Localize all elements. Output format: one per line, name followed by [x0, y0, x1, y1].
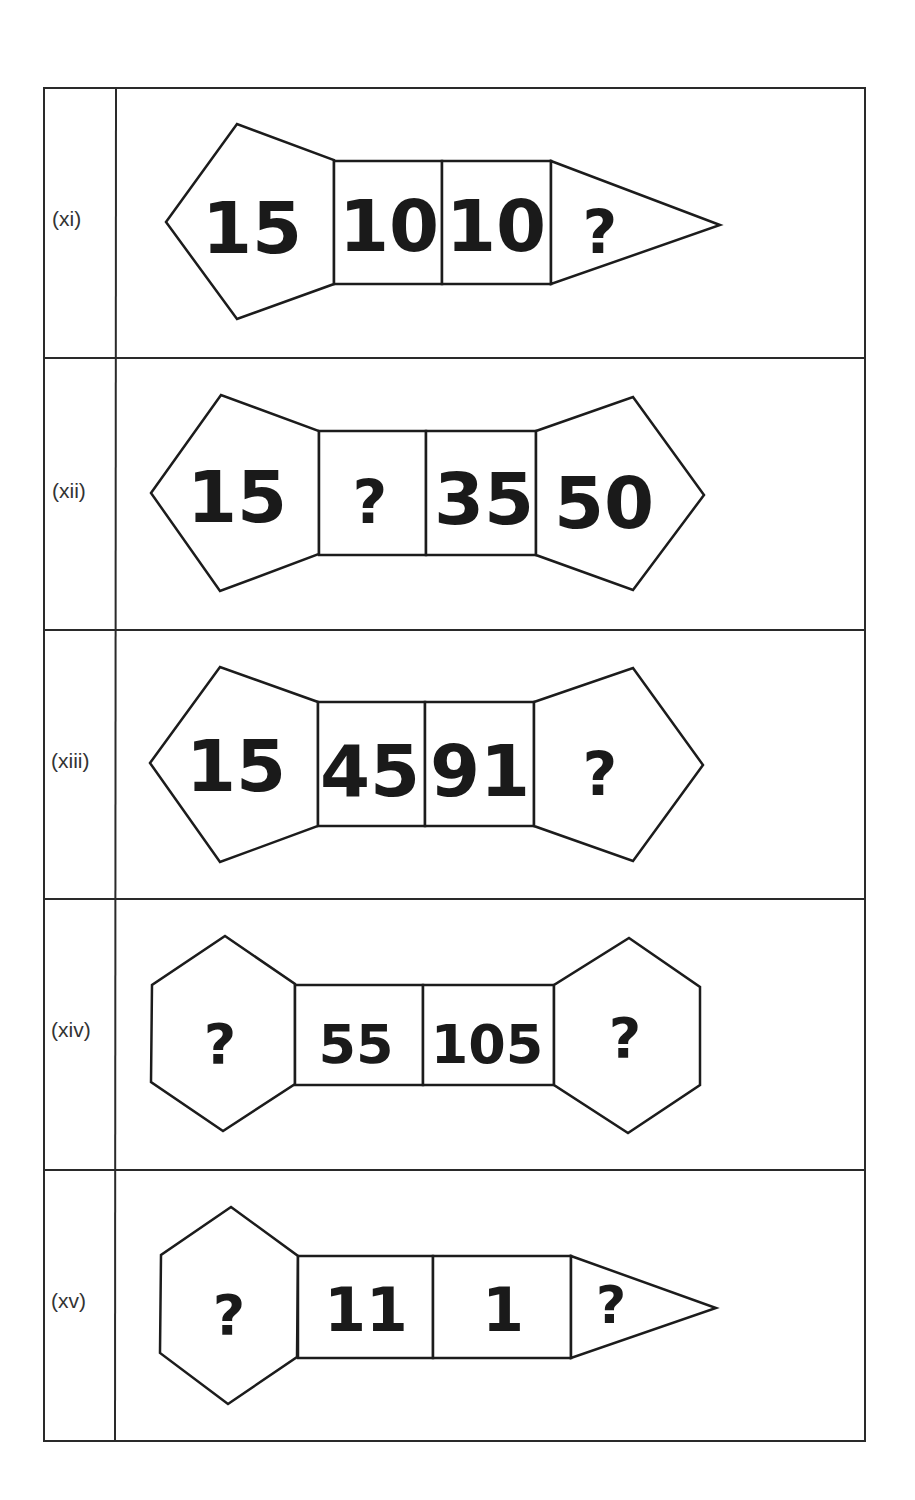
row-xv-figure: ? 11 1 ? — [160, 1207, 716, 1404]
cell-value-unknown: ? — [583, 739, 618, 809]
cell-value-unknown: ? — [583, 197, 618, 267]
row-label-xiv: (xiv) — [51, 1018, 91, 1041]
puzzle-table: (xi) (xii) (xiii) (xiv) (xv) 15 10 10 ? … — [0, 0, 915, 1500]
cell-value: 55 — [318, 1013, 393, 1076]
triangle-shape — [571, 1256, 716, 1358]
cell-value: 10 — [446, 184, 546, 268]
cell-value: 15 — [202, 186, 302, 270]
cell-value: 1 — [482, 1275, 524, 1345]
label-column-divider — [115, 88, 116, 1441]
cell-value: 91 — [430, 729, 530, 813]
cell-value: 50 — [554, 461, 654, 545]
cell-value: 15 — [187, 455, 287, 539]
cell-value-unknown: ? — [353, 467, 388, 537]
cell-value-unknown: ? — [609, 1005, 641, 1070]
cell-value: 11 — [324, 1275, 408, 1345]
row-xi-figure: 15 10 10 ? — [166, 124, 720, 319]
row-xiv-figure: ? 55 105 ? — [151, 936, 700, 1133]
row-label-xiii: (xiii) — [51, 749, 89, 772]
cell-value: 10 — [339, 184, 439, 268]
row-label-xv: (xv) — [51, 1289, 86, 1312]
pentagon-shape — [534, 668, 703, 861]
cell-value-unknown: ? — [213, 1282, 245, 1347]
row-label-xi: (xi) — [52, 207, 81, 230]
cell-value-unknown: ? — [204, 1011, 236, 1076]
cell-value: 45 — [320, 729, 420, 813]
row-label-xii: (xii) — [52, 479, 86, 502]
triangle-shape — [551, 161, 720, 284]
cell-value: 105 — [431, 1013, 544, 1076]
cell-value: 35 — [434, 457, 534, 541]
cell-value-unknown: ? — [596, 1275, 626, 1335]
row-xiii-figure: 15 45 91 ? — [150, 667, 703, 862]
cell-value: 15 — [186, 724, 286, 808]
row-xii-figure: 15 ? 35 50 — [151, 395, 704, 591]
